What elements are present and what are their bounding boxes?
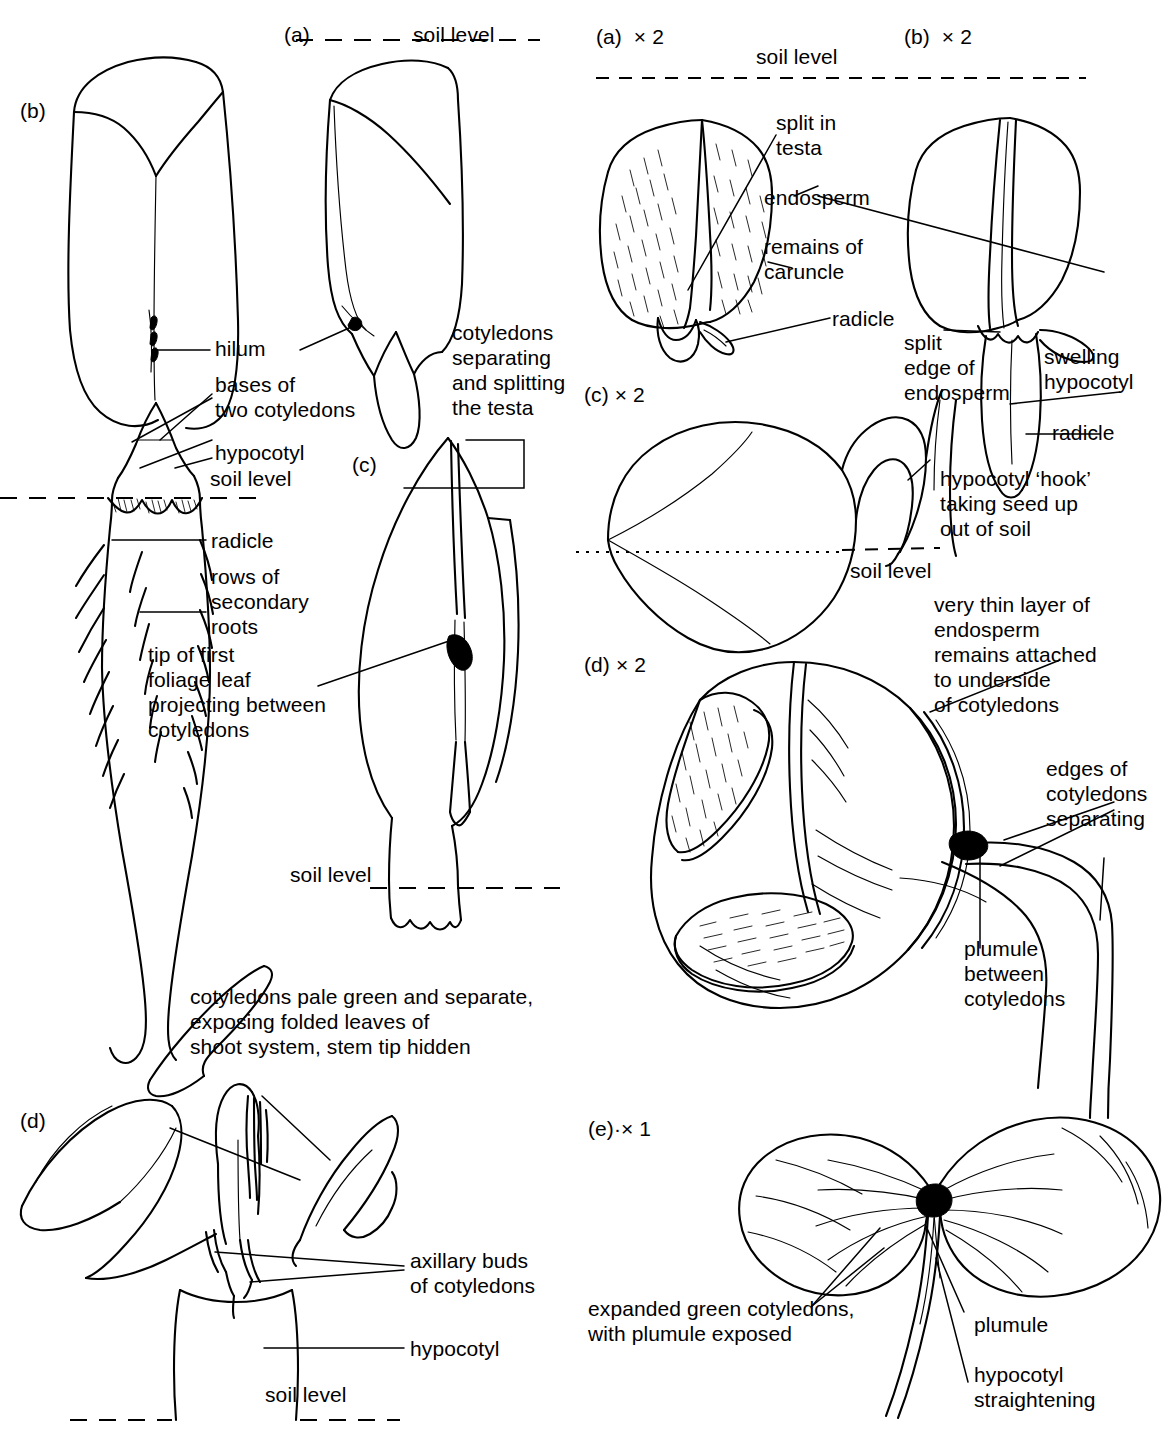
annotation-endosperm: endosperm <box>764 185 870 210</box>
panel-label-right-b-mag: × 2 <box>942 25 972 48</box>
panel-label-right-d-mag: × 2 <box>616 653 646 676</box>
annotation-hypocotyl-left: hypocotyl <box>215 440 305 465</box>
annotation-swelling-hypocotyl: swelling hypocotyl <box>1044 344 1134 394</box>
panel-label-right-c: (c) × 2 <box>584 382 645 407</box>
panel-label-right-d-id: (d) <box>584 653 610 676</box>
annotation-remains-of-caruncle: remains of caruncle <box>764 234 863 284</box>
panel-label-right-d: (d) × 2 <box>584 652 646 677</box>
panel-label-left-c: (c) <box>352 452 377 477</box>
annotation-bases-of-two-cotyledons: bases of two cotyledons <box>215 372 355 422</box>
left-leader-lines <box>112 324 524 1348</box>
annotation-very-thin-layer-of-endosperm: very thin layer of endosperm remains att… <box>934 592 1097 717</box>
panel-label-left-d: (d) <box>20 1108 46 1133</box>
annotation-cotyledons-pale-green: cotyledons pale green and separate, expo… <box>190 984 533 1059</box>
annotation-tip-of-first-foliage-leaf: tip of first foliage leaf projecting bet… <box>148 642 326 742</box>
soil-level-label-right-c: soil level <box>850 558 932 583</box>
soil-level-label-left-c: soil level <box>290 862 372 887</box>
annotation-hypocotyl-hook: hypocotyl ‘hook’ taking seed up out of s… <box>940 466 1091 541</box>
annotation-cotyledons-separating: cotyledons separating and splitting the … <box>452 320 565 420</box>
right-figure-c-hook <box>608 390 956 652</box>
panel-label-right-b: (b) × 2 <box>904 24 972 49</box>
left-figure-b-seedling <box>68 58 238 1063</box>
soil-level-label-left-b: soil level <box>210 466 292 491</box>
annotation-radicle-right-a: radicle <box>832 306 895 331</box>
annotation-hypocotyl-left-d: hypocotyl <box>410 1336 500 1361</box>
panel-label-left-a: (a) <box>284 22 310 47</box>
panel-label-right-a-id: (a) <box>596 25 622 48</box>
left-figure-c-seedling <box>359 438 519 930</box>
annotation-edges-of-cotyledons-separating: edges of cotyledons separating <box>1046 756 1147 831</box>
annotation-radicle-right-b: radicle <box>1052 420 1115 445</box>
panel-label-right-b-id: (b) <box>904 25 930 48</box>
soil-level-label-right-top: soil level <box>756 44 838 69</box>
annotation-rows-of-secondary-roots: rows of secondary roots <box>211 564 309 639</box>
soil-level-label-left-a: soil level <box>413 22 495 47</box>
panel-label-right-c-id: (c) <box>584 383 609 406</box>
panel-label-right-e: (e)·× 1 <box>588 1116 651 1141</box>
annotation-plumule: plumule <box>974 1312 1048 1337</box>
panel-label-right-e-mag: × 1 <box>621 1117 651 1140</box>
diagram-sheet: (b) (a) (c) (d) soil level soil level so… <box>0 0 1162 1430</box>
annotation-split-in-testa: split in testa <box>776 110 836 160</box>
panel-label-right-a: (a) × 2 <box>596 24 664 49</box>
panel-label-right-c-mag: × 2 <box>615 383 645 406</box>
annotation-expanded-green-cotyledons: expanded green cotyledons, with plumule … <box>588 1296 854 1346</box>
annotation-radicle-left: radicle <box>211 528 274 553</box>
right-figure-d-cotyledons <box>651 662 1113 1118</box>
annotation-hilum: hilum <box>215 336 266 361</box>
soil-level-label-left-d: soil level <box>265 1382 347 1407</box>
annotation-hypocotyl-straightening: hypocotyl straightening <box>974 1362 1096 1412</box>
right-figure-e-seedling <box>739 1118 1160 1418</box>
annotation-plumule-between-cotyledons: plumule between cotyledons <box>964 936 1065 1011</box>
panel-label-left-b: (b) <box>20 98 46 123</box>
annotation-split-edge-of-endosperm: split edge of endosperm <box>904 330 1010 405</box>
panel-label-right-e-id: (e)· <box>588 1117 621 1140</box>
annotation-axillary-buds: axillary buds of cotyledons <box>410 1248 535 1298</box>
right-figure-a-seed <box>600 120 772 362</box>
panel-label-right-a-mag: × 2 <box>634 25 664 48</box>
